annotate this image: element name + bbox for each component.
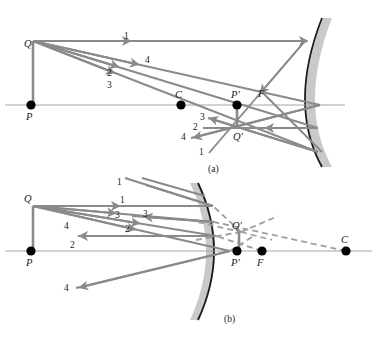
ray-label-a-6: 4 — [181, 132, 186, 142]
ray-label-a-0: 1 — [124, 31, 129, 41]
mirror-backing-a — [306, 18, 332, 167]
point-P-a — [26, 100, 35, 109]
point-F-b — [257, 246, 266, 255]
ray-label-a-2: 2 — [107, 68, 112, 78]
ray-label-b-6: 4 — [64, 283, 69, 293]
ray-label-a-3: 3 — [107, 80, 112, 90]
ray-label-b-4: 2 — [125, 224, 130, 234]
label-Pprime-b: P' — [230, 257, 240, 268]
label-P-a: P — [25, 111, 33, 122]
ray-label-a-7: 1 — [199, 147, 204, 157]
ray-label-b-7: 1 — [117, 177, 122, 187]
point-C-a — [176, 100, 185, 109]
ray-label-b-2: 3 — [143, 209, 148, 219]
label-Q-a: Q — [24, 38, 32, 49]
point-C-b — [341, 246, 350, 255]
ray-label-b-3: 4 — [64, 221, 69, 231]
label-P-b: P — [25, 257, 33, 268]
ray-label-b-5: 2 — [70, 240, 75, 250]
label-Qprime-a: Q' — [233, 131, 244, 142]
label-F-a: F — [257, 88, 265, 99]
point-Pprime-a — [232, 100, 241, 109]
panel-b: Q P P' F C Q' 1 3 3 4 2 2 4 1 (b) — [5, 177, 372, 325]
ray-label-a-4: 3 — [200, 112, 205, 122]
point-Pprime-b — [232, 246, 241, 255]
ray-label-a-5: 2 — [193, 122, 198, 132]
point-P-b — [26, 246, 35, 255]
optics-ray-diagram: Q P C P' F Q' 1 4 2 3 3 2 4 1 (a) — [0, 0, 377, 348]
panel-a: Q P C P' F Q' 1 4 2 3 3 2 4 1 (a) — [5, 18, 345, 175]
label-F-b: F — [256, 257, 264, 268]
label-C-a: C — [175, 89, 183, 100]
ray-label-b-0: 1 — [120, 195, 125, 205]
figure-canvas: Q P C P' F Q' 1 4 2 3 3 2 4 1 (a) — [0, 0, 377, 348]
caption-b: (b) — [224, 314, 235, 325]
label-Qprime-b: Q' — [232, 220, 243, 231]
ray-label-b-1: 3 — [115, 210, 120, 220]
label-Q-b: Q — [24, 193, 32, 204]
label-C-b: C — [341, 234, 349, 245]
ray-label-a-1: 4 — [145, 55, 150, 65]
caption-a: (a) — [208, 164, 219, 175]
ray-1-reflected-arrow-a — [262, 41, 305, 91]
label-Pprime-a: P' — [230, 89, 240, 100]
